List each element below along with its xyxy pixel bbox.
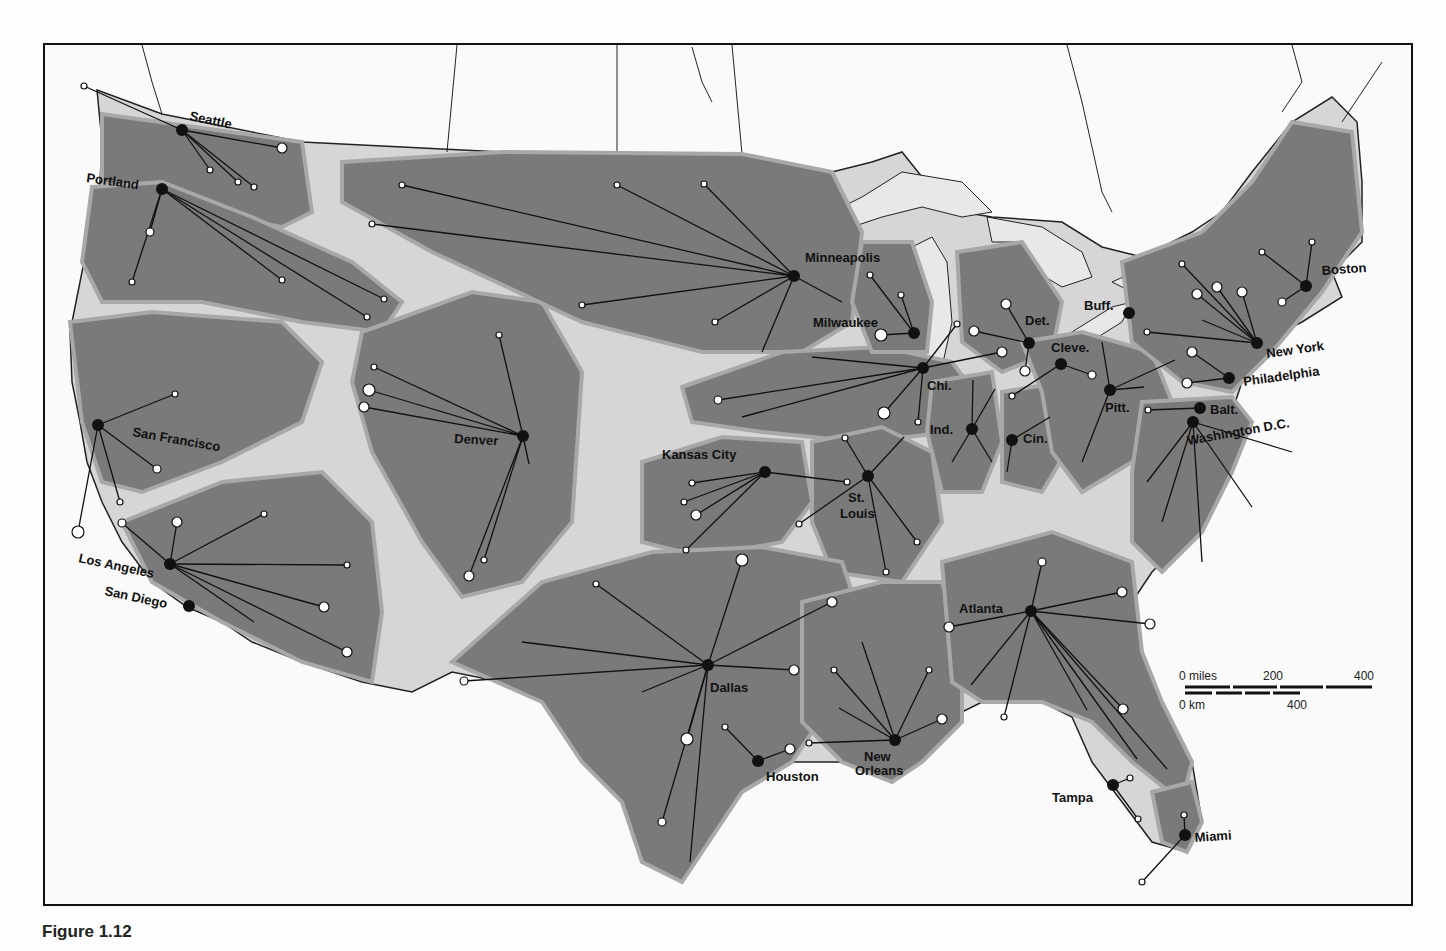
city-label-milwaukee: Milwaukee [813, 315, 878, 330]
city-label-balt: Balt. [1210, 402, 1238, 417]
city-label-st: St. [848, 490, 865, 505]
city-dot-st [862, 470, 874, 482]
city-label-miami: Miami [1194, 827, 1232, 845]
metro-regions [70, 114, 1362, 882]
city-label-tampa: Tampa [1052, 790, 1094, 805]
city-dot-milwaukee [908, 327, 920, 339]
city-dot-seattle [176, 124, 188, 136]
scale-miles-end: 400 [1354, 669, 1374, 683]
scale-miles-mid: 200 [1263, 669, 1283, 683]
city-dot-new-york [1251, 337, 1263, 349]
region-atlanta [942, 532, 1192, 802]
city-label-louis: Louis [840, 506, 875, 521]
scale-km-label: 0 km [1179, 698, 1205, 712]
metropolitan-regions-map: SeattlePortlandSan FranciscoLos AngelesS… [45, 45, 1411, 904]
city-label-houston: Houston [766, 769, 819, 784]
city-dot-det [1023, 337, 1035, 349]
city-label-atlanta: Atlanta [959, 601, 1004, 616]
city-label-chi: Chi. [927, 378, 952, 393]
city-label-minneapolis: Minneapolis [805, 250, 880, 265]
city-dot-san-francisco [92, 419, 104, 431]
city-dot-dallas [702, 659, 714, 671]
scale-km-end: 400 [1287, 698, 1307, 712]
scale-bar: 0 miles 200 400 0 km 400 [1179, 669, 1374, 712]
city-label-kansas-city: Kansas City [662, 447, 737, 462]
map-frame: SeattlePortlandSan FranciscoLos AngelesS… [43, 43, 1413, 906]
city-label-cin: Cin. [1023, 431, 1048, 446]
city-label-cleve: Cleve. [1051, 340, 1089, 355]
city-label-buff: Buff. [1084, 298, 1114, 313]
city-dot-minneapolis [788, 270, 800, 282]
city-label-ind: Ind. [930, 422, 953, 437]
city-dot-washington-d-c [1187, 416, 1199, 428]
city-dot-los-angeles [164, 558, 176, 570]
city-dot-cleve [1055, 358, 1067, 370]
city-dot-houston [752, 755, 764, 767]
scale-miles-label: 0 miles [1179, 669, 1217, 683]
city-dot-denver [517, 430, 529, 442]
figure-caption: Figure 1.12 [42, 922, 132, 942]
city-dot-pitt [1104, 384, 1116, 396]
city-dot-tampa [1107, 779, 1119, 791]
city-dot-miami [1179, 829, 1191, 841]
city-dot-new [889, 734, 901, 746]
city-label-denver: Denver [454, 431, 499, 448]
city-dot-ind [966, 423, 978, 435]
city-dot-kansas-city [759, 466, 771, 478]
city-dot-balt [1194, 402, 1206, 414]
region-northeast [1122, 122, 1362, 392]
city-dot-cin [1006, 434, 1018, 446]
city-label-pitt: Pitt. [1105, 400, 1130, 415]
city-label-boston: Boston [1321, 260, 1367, 278]
city-dot-boston [1300, 280, 1312, 292]
city-dot-buff [1123, 307, 1135, 319]
city-dot-portland [156, 183, 168, 195]
city-dot-atlanta [1025, 605, 1037, 617]
city-label-dallas: Dallas [710, 680, 748, 695]
city-label-orleans: Orleans [855, 763, 903, 778]
city-dot-philadelphia [1223, 372, 1235, 384]
city-dot-san-diego [183, 600, 195, 612]
city-dot-chi [917, 362, 929, 374]
city-label-det: Det. [1025, 313, 1050, 328]
city-label-new: New [864, 749, 892, 764]
